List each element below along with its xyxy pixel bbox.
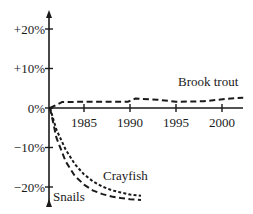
- series-label-snails: Snails: [53, 189, 85, 204]
- data-series: [50, 98, 243, 200]
- x-tick-label: 2000: [209, 115, 235, 130]
- series-label-crayfish: Crayfish: [103, 168, 148, 183]
- y-tick-label: −10%: [14, 140, 45, 155]
- series-label-brook-trout: Brook trout: [178, 74, 239, 89]
- y-tick-label: +20%: [14, 22, 45, 37]
- x-tick-label: 1995: [163, 115, 189, 130]
- line-chart: +20%+10%0%−10%−20% 1985199019952000 Broo…: [0, 0, 253, 214]
- brook-trout-line: [50, 98, 243, 108]
- y-tick-label: 0%: [28, 101, 46, 116]
- y-axis-ticks: +20%+10%0%−10%−20%: [14, 22, 53, 195]
- x-tick-label: 1985: [71, 115, 97, 130]
- y-tick-label: +10%: [14, 61, 45, 76]
- x-tick-label: 1990: [117, 115, 143, 130]
- y-tick-label: −20%: [14, 180, 45, 195]
